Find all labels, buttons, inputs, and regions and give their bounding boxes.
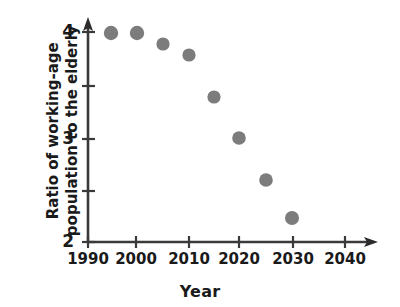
data-points-group	[104, 26, 299, 225]
chart-figure: 4 3 2 1990 2000 2010 2020 2030 2040 Year…	[0, 0, 400, 307]
data-point	[259, 173, 273, 187]
y-axis-title-line-1: Ratio of working-age	[44, 16, 63, 246]
axes-group	[83, 17, 378, 247]
data-point	[156, 37, 169, 50]
data-point	[207, 90, 220, 103]
x-axis-title: Year	[0, 282, 400, 301]
data-point	[182, 48, 195, 61]
y-axis-title-line-2: population to the elderly	[63, 16, 82, 246]
x-tick-label-2040: 2040	[310, 252, 380, 267]
y-axis-title: Ratio of working-age population to the e…	[44, 16, 82, 246]
data-point	[232, 131, 246, 145]
data-point	[104, 26, 118, 40]
data-point	[285, 211, 299, 225]
data-point	[130, 26, 144, 40]
